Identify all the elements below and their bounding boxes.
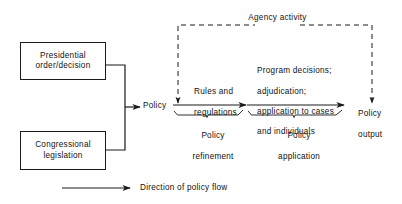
stage-policy-application-label: Policy application [259,121,329,172]
stage-policy-refinement-label: Policy refinement [174,121,242,172]
policy-output-line1: Policy [358,109,381,118]
feedback-loop-label: Agency activity [235,13,320,23]
box-congressional-legislation-label: Congressional legislation [20,131,106,170]
congressional-legislation-line1: Congressional [35,140,91,149]
program-line2: adjudication; [257,87,306,96]
connector-inputs-trunk [106,65,126,150]
policy-output-line2: output [358,130,382,139]
node-policy-output-label: Policy output [348,99,382,150]
program-line1: Program decisions; [257,66,332,75]
node-policy-label: Policy [143,101,166,111]
program-line3: application to cases [257,107,334,116]
box-presidential-order-label: Presidential order/decision [20,42,106,80]
refinement-line1: Policy [201,131,224,140]
congressional-legislation-line2: legislation [43,151,82,160]
legend-label: Direction of policy flow [140,183,227,193]
rules-line2: regulations [194,108,237,117]
refinement-line2: refinement [192,152,233,161]
policy-flow-diagram: Presidential order/decision Congressiona… [0,0,402,204]
presidential-order-line2: order/decision [36,61,91,70]
application-line1: Policy [287,131,310,140]
presidential-order-line1: Presidential [40,51,86,60]
application-line2: application [278,152,320,161]
rules-line1: Rules and [194,87,233,96]
